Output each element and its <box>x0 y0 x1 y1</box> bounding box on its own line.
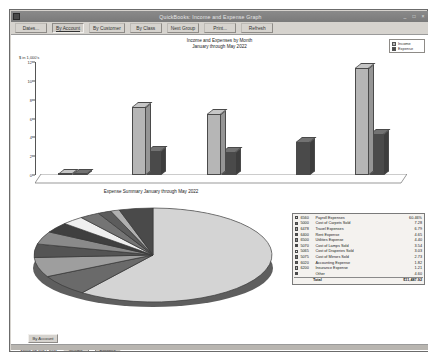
pie-chart-legend: 6560Payroll Expenses60.46%5000Cost of Ca… <box>292 213 425 285</box>
quickbooks-graph-window: QuickBooks: Income and Expense Graph _ □… <box>9 9 428 352</box>
toolbar-button-next-group[interactable]: Next Group <box>167 23 200 33</box>
yaxis-tick-mark <box>32 62 35 63</box>
pie-legend-account-name: Cost of Lamps Sold <box>315 244 400 248</box>
pie-legend-percent: 1.21 <box>400 266 423 270</box>
yaxis-tick-mark <box>32 80 35 81</box>
bar-front-face <box>73 173 87 175</box>
pie-legend-percent: 4.60 <box>400 272 423 276</box>
maximize-button[interactable]: □ <box>410 13 418 20</box>
legend-swatch-income <box>392 42 396 46</box>
pie-legend-percent: 60.46% <box>400 216 423 220</box>
pie-legend-row[interactable]: 6200Insurance Expense1.21 <box>294 265 423 271</box>
pie-legend-percent: 3.54 <box>400 244 423 248</box>
toolbar-button-print[interactable]: Print... <box>204 23 236 33</box>
legend-swatch-expense <box>392 47 396 51</box>
bar-income-may-22[interactable] <box>355 68 369 175</box>
pie-legend-swatch <box>295 250 298 253</box>
bar-expense-apr-22[interactable] <box>296 142 310 175</box>
toolbar-button-dates[interactable]: Dates... <box>15 23 47 33</box>
bar-front-face <box>207 114 221 175</box>
status-bar <box>11 344 428 350</box>
yaxis-tick-mark <box>32 99 35 100</box>
pie-legend-account-number: 5070 <box>300 244 315 248</box>
toolbar-button-by-account[interactable]: By Account <box>52 23 84 33</box>
pie-legend-account-name: Travel Expenses <box>315 227 400 231</box>
yaxis-tick-mark <box>32 137 35 138</box>
pie-legend-swatch <box>295 261 298 264</box>
by-account-button[interactable]: By Account <box>28 334 58 343</box>
pie-legend-row[interactable]: 6560Payroll Expenses60.46% <box>294 215 423 221</box>
toolbar-button-by-customer[interactable]: By Customer <box>89 23 125 33</box>
bar-income-jan-22[interactable] <box>58 174 72 175</box>
pie-chart-title: Expense Summary January through May 2022 <box>11 189 291 195</box>
pie-legend-row[interactable]: 5065Cost of Draperies Sold3.03 <box>294 249 423 255</box>
close-button[interactable]: × <box>419 13 427 20</box>
pie-chart-panel: Expense Summary January through May 2022… <box>11 187 428 327</box>
pie-legend-swatch <box>295 233 298 236</box>
bar-side-face <box>384 130 389 175</box>
pie-legend-swatch <box>295 227 298 230</box>
bar-expense-jan-22[interactable] <box>73 174 87 175</box>
bar-income-mar-22[interactable] <box>207 114 221 175</box>
bar-side-face <box>161 147 166 175</box>
pie-legend-account-number: 6020 <box>300 261 315 265</box>
bar-chart-plot-area: 024681012Jan 22Feb 22Mar 22Apr 22May 22 <box>35 62 407 175</box>
pie-legend-percent: 7.28 <box>400 221 423 225</box>
pie-legend-row[interactable]: 5070Cost of Lamps Sold3.54 <box>294 243 423 249</box>
bar-chart-title-text: Income and Expenses by Month <box>187 38 253 43</box>
bar-income-feb-22[interactable] <box>132 107 146 175</box>
pie-chart-subtitle: January through May 2022 <box>144 189 199 194</box>
pie-legend-total-value: $11,487.92 <box>382 278 423 282</box>
bar-front-face <box>58 173 72 175</box>
pie-legend-row[interactable]: 6478Travel Expenses6.79 <box>294 226 423 232</box>
bar-chart-title: Income and Expenses by Month January thr… <box>11 38 428 49</box>
pie-legend-percent: 2.73 <box>400 255 423 259</box>
toolbar-button-refresh[interactable]: Refresh <box>241 23 273 33</box>
toolbar-button-by-class[interactable]: By Class <box>130 23 162 33</box>
pie-legend-swatch <box>295 216 298 219</box>
pie-legend-percent: 4.40 <box>400 238 423 242</box>
window-title: QuickBooks: Income and Expense Graph <box>20 14 401 20</box>
pie-legend-account-name: Other <box>315 272 400 276</box>
bar-chart-floor <box>35 174 407 184</box>
legend-label-expense: Expense <box>398 46 413 51</box>
pie-legend-account-number: 5065 <box>300 249 315 253</box>
pie-legend-swatch <box>295 272 298 275</box>
pie-legend-total-label: Total <box>294 278 382 282</box>
bar-chart-yaxis <box>35 62 36 175</box>
pie-legend-swatch <box>295 255 298 258</box>
minimize-button[interactable]: _ <box>401 13 409 20</box>
pie-legend-account-number: 6500 <box>300 238 315 242</box>
pie-legend-row[interactable]: 6500Utilities Expense4.40 <box>294 237 423 243</box>
pie-legend-percent: 3.03 <box>400 249 423 253</box>
bar-chart-panel: Income and Expenses by Month January thr… <box>11 35 428 187</box>
legend-item-expense: Expense <box>392 46 422 51</box>
pie-legend-account-number: 6478 <box>300 227 315 231</box>
bar-side-face <box>146 103 151 175</box>
pie-legend-row[interactable]: 6020Accounting Expense1.82 <box>294 260 423 266</box>
pie-legend-row[interactable]: 5075Cost of Mirrors Sold2.73 <box>294 254 423 260</box>
pie-legend-swatch <box>295 238 298 241</box>
yaxis-tick-mark <box>32 175 35 176</box>
pie-legend-row[interactable]: 5000Cost of Carpets Sold7.28 <box>294 221 423 227</box>
app-icon[interactable] <box>13 13 20 20</box>
bar-chart-legend: IncomeExpense <box>389 39 425 53</box>
pie-legend-account-name: Cost of Mirrors Sold <box>315 255 400 259</box>
pie-legend-account-name: Rent Expense <box>315 233 400 237</box>
pie-legend-total-row: Total$11,487.92 <box>294 277 423 284</box>
pie-legend-account-name: Accounting Expense <box>315 261 400 265</box>
pie-legend-swatch <box>295 266 298 269</box>
bar-front-face <box>355 68 369 175</box>
bar-chart-subtitle: January through May 2022 <box>11 44 428 50</box>
pie-legend-account-name: Cost of Carpets Sold <box>315 221 400 225</box>
pie-legend-row[interactable]: 6400Rent Expense4.65 <box>294 232 423 238</box>
pie-legend-percent: 6.79 <box>400 227 423 231</box>
bar-side-face <box>310 138 315 175</box>
pie-legend-account-name: Cost of Draperies Sold <box>315 249 400 253</box>
yaxis-tick-mark <box>32 118 35 119</box>
pie-chart-graphic[interactable] <box>33 207 273 317</box>
pie-chart-top-face <box>33 207 273 303</box>
pie-legend-percent: 1.82 <box>400 261 423 265</box>
pie-legend-account-number: 6400 <box>300 233 315 237</box>
pie-legend-swatch <box>295 222 298 225</box>
